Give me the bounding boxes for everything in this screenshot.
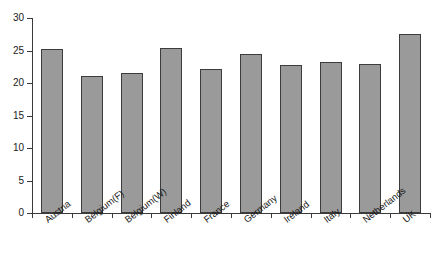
x-axis-tick: [32, 213, 33, 218]
y-axis-tick: [27, 83, 32, 84]
bar-chart: 051015202530 AustriaBelgium(F)Belgium(W)…: [0, 0, 434, 273]
y-axis-tick-label: 25: [13, 46, 24, 56]
x-axis-tick: [350, 213, 351, 218]
bar-netherlands: [359, 64, 381, 214]
bar-italy: [320, 62, 342, 213]
bar-france: [200, 69, 222, 213]
bar-austria: [41, 49, 63, 213]
bar-finland: [160, 48, 182, 213]
x-axis-tick: [311, 213, 312, 218]
x-axis-tick: [390, 213, 391, 218]
bar-belgium-f: [81, 76, 103, 213]
y-axis-tick-label: 5: [18, 176, 24, 186]
y-axis-tick: [27, 51, 32, 52]
x-axis-tick: [231, 213, 232, 218]
y-axis-tick-label: 20: [13, 78, 24, 88]
x-axis-tick: [191, 213, 192, 218]
x-axis-tick: [430, 213, 431, 218]
bar-germany: [240, 54, 262, 213]
x-axis-tick: [72, 213, 73, 218]
y-axis-tick-label: 10: [13, 143, 24, 153]
y-axis-tick-label: 30: [13, 13, 24, 23]
y-axis-tick: [27, 181, 32, 182]
plot-area: 051015202530: [32, 18, 430, 213]
y-axis-tick: [27, 148, 32, 149]
bar-belgium-w: [121, 73, 143, 213]
y-axis-tick: [27, 18, 32, 19]
bar-uk: [399, 34, 421, 213]
x-axis-tick: [112, 213, 113, 218]
y-axis-tick-label: 0: [18, 208, 24, 218]
y-axis-tick: [27, 116, 32, 117]
x-axis-tick: [271, 213, 272, 218]
y-axis-tick-label: 15: [13, 111, 24, 121]
x-axis-tick: [151, 213, 152, 218]
bar-ireland: [280, 65, 302, 213]
